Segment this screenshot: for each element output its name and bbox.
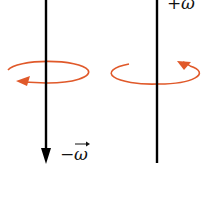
left-axis-label: − ω	[60, 142, 90, 165]
svg-text:ω: ω	[181, 0, 195, 13]
right-rotation-arrow	[111, 61, 199, 84]
left-rotation-arrow	[8, 61, 89, 86]
angular-velocity-diagram: − ω + ω	[0, 0, 214, 203]
down-arrowhead-icon	[41, 148, 51, 164]
svg-text:+: +	[167, 0, 181, 13]
right-axis-label: + ω	[167, 0, 195, 13]
vector-arrow-icon	[86, 142, 90, 147]
left-axis	[41, 0, 51, 164]
svg-text:ω: ω	[74, 144, 88, 164]
svg-text:−: −	[60, 144, 74, 164]
left-rotation-arrowhead-icon	[16, 76, 30, 86]
